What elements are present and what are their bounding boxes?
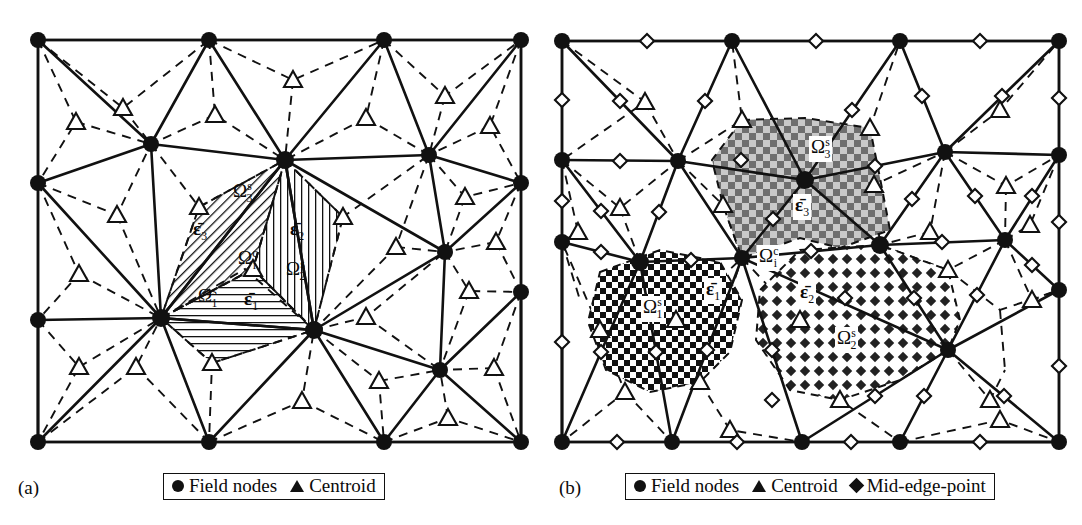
omega-s3-label-b: Ωs3 [809,136,832,162]
panel-b: Ωs3 ε̄3 Ωci ε̄1 ε̄2 Ωs1 Ωs2 (b) Field no… [541,0,1082,525]
legend-item-mid-edge-point: Mid-edge-point [851,476,986,496]
legend-a: Field nodes Centroid [163,473,385,500]
eps-bar-2-label-b: ε̄2 [798,281,816,307]
omega-s3-label-a: Ωs3 [233,180,252,206]
legend-b: Field nodes Centroid Mid-edge-point [625,473,995,500]
legend-item-field-nodes: Field nodes [172,476,277,496]
eps-bar-1-label-a: ε̄1 [244,288,258,314]
eps-bar-1-label-b: ε̄1 [704,278,722,304]
legend-label: Field nodes [189,476,277,496]
eps-bar-3-label-a: ε̄3 [193,218,207,244]
legend-item-centroid: Centroid [752,476,838,496]
omega-ci-label-a: Ωci [238,247,256,273]
legend-label: Field nodes [651,476,739,496]
eps-bar-2-label-a: ε̄2 [290,218,304,244]
mesh-diagram-b [541,0,1082,470]
legend-item-centroid: Centroid [290,476,376,496]
legend-label: Centroid [771,476,838,496]
caption-row-a: (a) Field nodes Centroid [0,473,541,507]
omega-s1-label-b: Ωs1 [641,296,664,322]
panel-letter-a: (a) [18,477,39,499]
legend-label: Centroid [309,476,376,496]
filled-circle-icon [634,480,646,492]
panel-a: Ωs3 ε̄3 ε̄2 Ωci Ωs2 Ωs1 ε̄1 (a) Field no… [0,0,541,525]
filled-circle-icon [172,480,184,492]
eps-bar-3-label-b: ε̄3 [793,194,811,220]
omega-s1-label-a: Ωs1 [198,285,217,311]
legend-label: Mid-edge-point [867,476,986,496]
legend-item-field-nodes: Field nodes [634,476,739,496]
mesh-diagram-a [0,0,541,470]
filled-triangle-icon [752,480,766,492]
panel-letter-b: (b) [559,477,581,499]
caption-row-b: (b) Field nodes Centroid Mid-edge-point [541,473,1082,507]
omega-s2-label-a: Ωs2 [286,258,305,284]
omega-ci-label-b: Ωci [757,245,779,271]
filled-diamond-icon [848,478,864,494]
omega-s2-label-b: Ωs2 [835,327,858,353]
filled-triangle-icon [290,480,304,492]
